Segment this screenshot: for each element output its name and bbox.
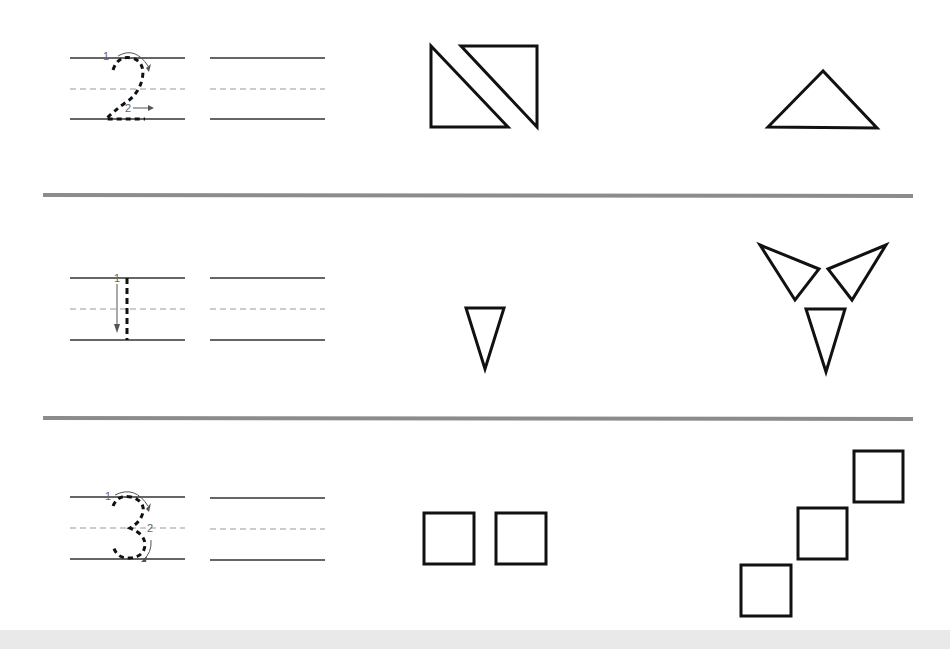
practice-lines[interactable] <box>210 278 325 340</box>
square-shape <box>741 565 791 616</box>
footer-band <box>0 630 950 649</box>
row-divider <box>43 418 913 419</box>
triangle-shape <box>466 308 504 369</box>
triangle-shape <box>828 245 886 300</box>
shape-group-three-triangles <box>760 245 886 372</box>
row-number-3: 1 2 <box>70 451 903 616</box>
triangle-shape <box>760 245 819 300</box>
row-number-1: 1 <box>70 245 886 372</box>
triangle-shape <box>461 46 537 127</box>
square-shape <box>496 513 546 564</box>
worksheet-page: 1 2 <box>0 0 950 630</box>
shape-group-one-triangle <box>768 71 877 128</box>
shape-group-three-squares <box>741 451 903 616</box>
practice-lines[interactable] <box>210 58 325 119</box>
shape-group-one-inverted-triangle <box>466 308 504 369</box>
square-shape <box>798 508 847 559</box>
stroke-order-arrows: 1 2 <box>105 490 153 562</box>
stroke-order-arrows: 1 2 <box>103 50 154 114</box>
square-shape <box>424 513 474 564</box>
square-shape <box>854 451 903 502</box>
practice-lines[interactable] <box>210 498 325 560</box>
shape-group-two-triangles <box>431 46 537 127</box>
stroke-label-2: 2 <box>125 102 131 114</box>
shape-group-two-squares <box>424 513 546 564</box>
stroke-label-1: 1 <box>114 272 120 284</box>
row-divider <box>43 195 913 196</box>
worksheet-canvas: 1 2 <box>0 0 950 630</box>
row-number-2: 1 2 <box>70 46 877 128</box>
triangle-shape <box>806 309 845 372</box>
stroke-label-2: 2 <box>147 522 153 534</box>
triangle-shape <box>431 46 508 127</box>
stroke-label-1: 1 <box>103 50 109 62</box>
stroke-order-arrows: 1 <box>114 272 120 333</box>
triangle-shape <box>768 71 877 128</box>
stroke-label-1: 1 <box>105 490 111 502</box>
traceable-digit-3[interactable] <box>113 496 145 558</box>
